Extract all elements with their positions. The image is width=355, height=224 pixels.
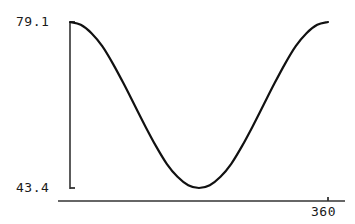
y-axis-min-label: 43.4 [16, 181, 49, 194]
chart-screenshot: 79.1 43.4 360 [0, 0, 355, 224]
data-curve-cosine [70, 22, 328, 188]
plot-canvas [0, 0, 355, 224]
x-axis-max-label: 360 [311, 205, 336, 218]
y-axis-max-label: 79.1 [16, 15, 49, 28]
